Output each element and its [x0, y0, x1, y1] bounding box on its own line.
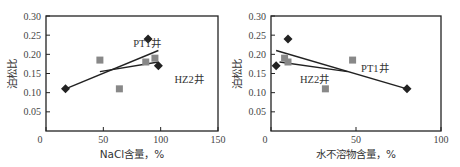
data-point-square — [142, 59, 149, 66]
data-point-square — [116, 85, 123, 92]
x-tick-label: 100 — [434, 134, 449, 145]
data-point-diamond — [284, 35, 293, 44]
x-axis-title: NaCl含量，% — [100, 148, 165, 160]
series-annotation: PT1井 — [133, 37, 161, 49]
x-tick-label: 100 — [153, 134, 168, 145]
chart-canvas: 0.050.100.150.200.250.30050100水不溶物含量，%泊松… — [230, 0, 460, 167]
series-annotation: HZ2井 — [300, 73, 329, 85]
y-tick-label: 0.30 — [24, 11, 42, 22]
y-tick-label: 0.15 — [24, 68, 42, 79]
series-annotation: HZ2井 — [174, 73, 203, 85]
data-point-diamond — [403, 84, 412, 93]
x-axis-title: 水不溶物含量，% — [316, 148, 396, 160]
chart-canvas: 0.050.100.150.200.250.30050100150NaCl含量，… — [0, 0, 230, 167]
data-point-square — [151, 55, 158, 62]
data-point-diamond — [272, 61, 281, 70]
y-axis-title: 泊松比 — [231, 59, 243, 89]
y-tick-label: 0.20 — [249, 49, 267, 60]
y-tick-label: 0.20 — [24, 49, 42, 60]
trendline — [100, 62, 158, 72]
x-tick-label: 0 — [263, 134, 268, 145]
data-point-square — [349, 57, 356, 64]
series-annotation: PT1井 — [361, 62, 389, 74]
data-point-square — [96, 57, 103, 64]
x-tick-label: 50 — [351, 134, 361, 145]
y-tick-label: 0.30 — [249, 11, 267, 22]
y-tick-label: 0.05 — [24, 106, 42, 117]
x-tick-label: 0 — [38, 134, 43, 145]
data-point-diamond — [61, 84, 70, 93]
y-tick-label: 0.25 — [24, 30, 42, 41]
x-tick-label: 50 — [98, 134, 108, 145]
chart-insoluble-vs-poisson: 0.050.100.150.200.250.30050100水不溶物含量，%泊松… — [230, 0, 460, 167]
y-tick-label: 0.25 — [249, 30, 267, 41]
data-point-square — [322, 85, 329, 92]
data-point-square — [285, 59, 292, 66]
y-tick-label: 0.05 — [249, 106, 267, 117]
y-axis-title: 泊松比 — [6, 59, 18, 89]
x-tick-label: 150 — [211, 134, 226, 145]
y-tick-label: 0.10 — [24, 87, 42, 98]
chart-nacl-vs-poisson: 0.050.100.150.200.250.30050100150NaCl含量，… — [0, 0, 230, 167]
y-tick-label: 0.15 — [249, 68, 267, 79]
y-tick-label: 0.10 — [249, 87, 267, 98]
